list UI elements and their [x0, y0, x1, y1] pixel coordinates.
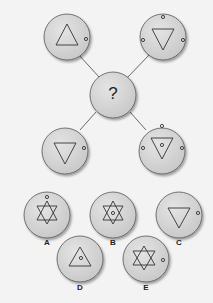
top-left-circle — [44, 14, 90, 60]
option-c-circle[interactable] — [156, 192, 202, 238]
option-d-label[interactable]: D — [70, 283, 90, 292]
option-c-label[interactable]: C — [169, 238, 189, 247]
option-e-label[interactable]: E — [136, 283, 156, 292]
option-b-label[interactable]: B — [103, 238, 123, 247]
option-a-label[interactable]: A — [37, 238, 57, 247]
question-mark: ? — [103, 84, 123, 104]
top-right-circle — [140, 14, 186, 60]
bottom-left-circle — [42, 128, 88, 174]
puzzle-diagram — [0, 0, 213, 303]
bottom-right-circle — [139, 128, 185, 174]
